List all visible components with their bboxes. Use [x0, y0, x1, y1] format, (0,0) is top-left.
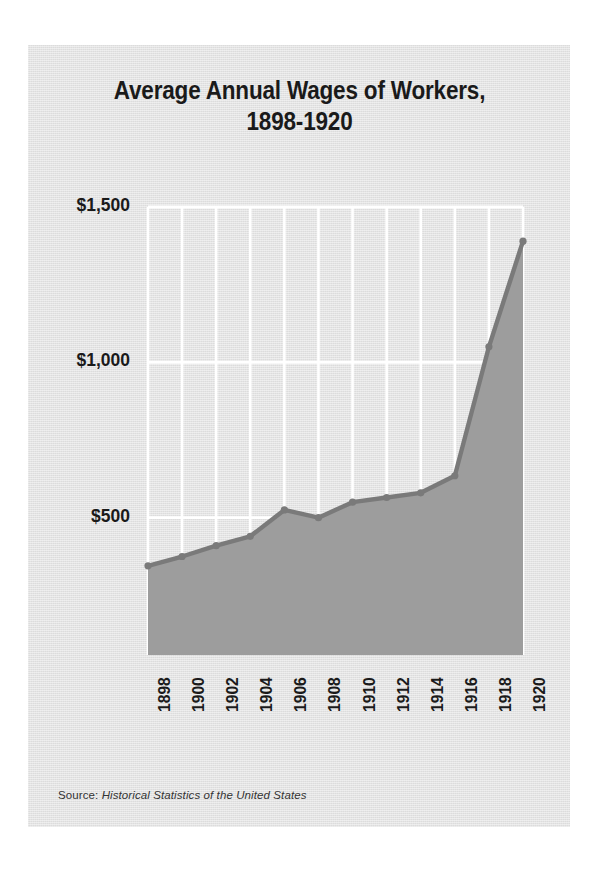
y-axis-tick-label: $1,500 [45, 194, 130, 216]
area-fill [148, 241, 523, 655]
data-point-marker [213, 542, 220, 549]
data-point-marker [281, 506, 288, 513]
x-axis-tick-label: 1900 [189, 677, 209, 712]
source-work-title: Historical Statistics of the United Stat… [102, 789, 307, 801]
y-axis-tick-label: $500 [45, 505, 130, 527]
data-point-marker [383, 494, 390, 501]
x-axis-tick-label: 1914 [428, 677, 448, 712]
x-axis-tick-label: 1918 [496, 677, 516, 712]
x-axis-tick-label: 1920 [530, 677, 550, 712]
data-point-marker [144, 562, 151, 569]
data-point-marker [417, 489, 424, 496]
x-axis-tick-label: 1912 [394, 677, 414, 712]
x-axis-tick-label: 1904 [257, 677, 277, 712]
source-note: Source: Historical Statistics of the Uni… [58, 789, 307, 801]
data-point-marker [519, 238, 526, 245]
x-axis-tick-label: 1916 [462, 677, 482, 712]
chart-plot [0, 0, 599, 877]
data-point-marker [247, 533, 254, 540]
x-axis-tick-label: 1898 [155, 677, 175, 712]
x-axis-tick-label: 1906 [291, 677, 311, 712]
source-prefix-label: Source: [58, 789, 98, 801]
x-axis-tick-label: 1902 [223, 677, 243, 712]
x-axis-tick-label: 1910 [360, 677, 380, 712]
x-axis-tick-label: 1908 [325, 677, 345, 712]
figure-canvas: Average Annual Wages of Workers, 1898-19… [0, 0, 599, 877]
area-fill-polygon [148, 241, 523, 655]
data-point-marker [178, 553, 185, 560]
data-point-marker [315, 514, 322, 521]
y-axis-tick-label: $1,000 [45, 349, 130, 371]
data-point-marker [485, 343, 492, 350]
data-point-marker [349, 499, 356, 506]
data-point-marker [451, 472, 458, 479]
